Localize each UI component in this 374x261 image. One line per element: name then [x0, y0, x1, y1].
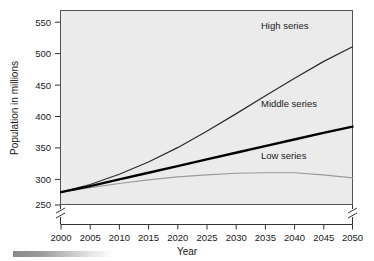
x-tick-label: 2035 [255, 232, 276, 243]
y-tick-label: 400 [35, 111, 51, 122]
y-tick-label: 500 [35, 48, 51, 59]
x-tick-label: 2010 [109, 232, 130, 243]
series-label-high: High series [261, 20, 309, 31]
chart-canvas: 550 500 450 400 350 300 250 2000 2005 20… [0, 0, 374, 261]
x-tick-label: 2000 [50, 232, 71, 243]
y-axis-ticks: 550 500 450 400 350 300 250 [35, 17, 60, 211]
x-tick-label: 2045 [313, 232, 334, 243]
right-axis-break-mark [348, 205, 357, 224]
population-projection-chart: 550 500 450 400 350 300 250 2000 2005 20… [0, 0, 374, 261]
series-label-middle: Middle series [261, 98, 317, 109]
x-tick-label: 2015 [138, 232, 159, 243]
x-tick-label: 2040 [284, 232, 305, 243]
y-tick-label: 450 [35, 80, 51, 91]
x-tick-label: 2030 [226, 232, 247, 243]
x-tick-label: 2020 [167, 232, 188, 243]
y-tick-label: 250 [35, 199, 51, 210]
y-axis-title: Population in millions [9, 61, 20, 155]
y-axis-break-mark [56, 205, 65, 224]
series-label-low: Low series [261, 150, 307, 161]
x-tick-label: 2025 [196, 232, 217, 243]
x-tick-label: 2005 [80, 232, 101, 243]
bottom-gradient-bar [13, 251, 113, 257]
x-tick-label: 2050 [342, 232, 363, 243]
y-tick-label: 350 [35, 142, 51, 153]
x-axis-ticks: 2000 2005 2010 2015 2020 2025 2030 2035 … [50, 225, 363, 244]
y-tick-label: 300 [35, 174, 51, 185]
x-axis-title: Year [177, 246, 198, 257]
y-tick-label: 550 [35, 17, 51, 28]
